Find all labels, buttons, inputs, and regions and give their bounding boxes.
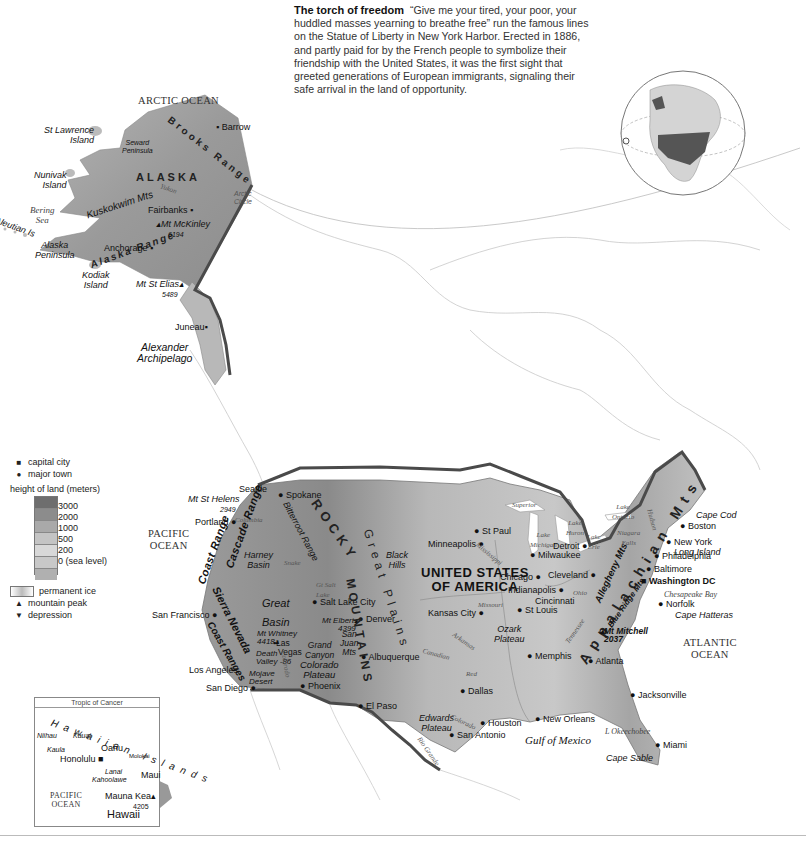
city-washington-dc: ■ Washington DC [641, 576, 716, 586]
label-bering-sea: BeringSea [30, 205, 55, 225]
label-pacific-ocean: PACIFICOCEAN [148, 528, 189, 552]
label-hawaii: Hawaii [107, 809, 140, 819]
city-el-paso: ● El Paso [358, 701, 397, 711]
city-phoenix: ● Phoenix [300, 681, 340, 691]
city-jacksonville: ● Jacksonville [630, 690, 686, 700]
label-niihau: Niihau [37, 732, 57, 740]
label-ohio: Ohio [573, 588, 587, 598]
permanent-ice-swatch [10, 586, 34, 597]
label-kahoolawe: Kahoolawe [92, 776, 127, 784]
legend-major-town: ●major town [10, 468, 145, 480]
city-cleveland: Cleveland ● [548, 570, 596, 580]
peak-mt-mitchell: ▴Mt Mitchell2037 [600, 627, 648, 643]
label-kaula: Kaula [47, 746, 65, 754]
legend-mountain-peak: ▲mountain peak [10, 597, 145, 609]
label-gulf-of-mexico: Gulf of Mexico [525, 735, 591, 745]
city-anchorage: Anchorage ▪ [104, 243, 153, 253]
depression-icon: ▼ [10, 611, 28, 620]
city-milwaukee: ● Milwaukee [530, 550, 580, 560]
city-norfolk: ● Norfolk [658, 599, 694, 609]
label-lake-okeechobee: L Okeechobee [605, 727, 650, 737]
locator-globe [621, 71, 745, 195]
city-fairbanks: Fairbanks ▪ [148, 205, 193, 215]
city-los-angeles: Los Angeles [189, 665, 238, 675]
label-grand-canyon: GrandCanyon [305, 640, 334, 660]
city-honolulu: Honolulu ■ [60, 754, 103, 764]
legend-capital-city: ■capital city [10, 456, 145, 468]
label-nunivak-island: NunivakIsland [34, 170, 67, 190]
city-san-francisco: San Francisco ● [152, 610, 217, 620]
label-maui: Maui [141, 770, 161, 780]
city-new-orleans: ● New Orleans [535, 714, 595, 724]
label-kodiak-island: KodiakIsland [82, 270, 110, 290]
label-lake-huron: LakeHuron [566, 518, 584, 538]
map-legend: ■capital city ●major town height of land… [10, 456, 145, 621]
major-town-icon: ● [10, 470, 28, 479]
label-ozark-plateau: OzarkPlateau [494, 624, 525, 644]
label-alaska: ALASKA [136, 172, 200, 182]
label-atlantic-ocean: ATLANTICOCEAN [683, 637, 737, 661]
city-san-diego: San Diego ● [206, 683, 256, 693]
legend-depression: ▼depression [10, 609, 145, 621]
height-labels: 3000 2000 1000 500 200 0 (sea level) [58, 501, 107, 567]
label-cape-hatteras: Cape Hatteras [675, 610, 733, 620]
label-molokai: Molokai [129, 752, 150, 760]
label-seward-peninsula: SewardPeninsula [122, 139, 153, 155]
legend-height-title: height of land (meters) [10, 484, 145, 494]
label-arctic-circle: ArcticCircle [234, 190, 252, 206]
city-st-paul: ● St Paul [474, 526, 511, 536]
label-missouri: Missouri [478, 600, 503, 610]
page-footer-line [0, 835, 806, 836]
city-atlanta: ● Atlanta [588, 656, 623, 666]
label-oahu: Oahu [101, 743, 123, 753]
city-kansas-city: Kansas City ● [428, 608, 484, 618]
label-alexander-archipelago: AlexanderArchipelago [137, 342, 192, 364]
label-pacific-ocean-inset: PACIFICOCEAN [50, 791, 82, 809]
label-cape-cod: Cape Cod [696, 510, 737, 520]
city-boston: ● Boston [680, 521, 716, 531]
city-houston: ● Houston [480, 718, 521, 728]
label-red: Red [466, 669, 477, 679]
label-black-hills: BlackHills [386, 550, 408, 570]
city-juneau: Juneau▪ [175, 322, 208, 332]
hawaii-inset: Tropic of Cancer Hawaiian Islands Niihau… [34, 697, 160, 827]
label-snake: Snake [284, 558, 301, 568]
label-arctic-ocean: ARCTIC OCEAN [138, 95, 219, 107]
city-salt-lake-city: ● Salt Lake City [312, 597, 375, 607]
label-lanai: Lanai [105, 768, 122, 776]
peak-mt-st-helens: Mt St Helens2949 [188, 494, 240, 514]
label-niagara-falls: NiagaraFalls [617, 528, 640, 548]
city-philadelphia: ● Philadelphia [654, 551, 711, 561]
height-ramp [34, 496, 58, 575]
label-kauai: Kauai [73, 732, 91, 740]
city-barrow: ▪ Barrow [216, 122, 250, 132]
city-memphis: ● Memphis [527, 651, 571, 661]
label-alaska-peninsula: AlaskaPeninsula [35, 240, 75, 260]
label-great-basin: GreatBasin [262, 594, 290, 632]
legend-permanent-ice: permanent ice [10, 585, 145, 597]
canada-outline [250, 195, 760, 470]
peak-mt-st-elias: Mt St Elias▴5489 [136, 279, 184, 299]
label-superior: Superior [512, 500, 537, 510]
city-new-york: ● New York [666, 537, 712, 547]
peak-mt-mckinley: ▴Mt McKinley6194 [156, 219, 210, 239]
label-cape-sable: Cape Sable [606, 753, 653, 763]
tropic-line [35, 707, 159, 708]
label-colorado-plateau: ColoradoPlateau [300, 660, 339, 680]
label-harney-basin: HarneyBasin [244, 550, 273, 570]
city-st-louis: ● St Louis [517, 605, 557, 615]
city-baltimore: ● Baltimore [646, 564, 692, 574]
mountain-peak-icon: ▲ [10, 599, 28, 608]
city-miami: ● Miami [655, 740, 687, 750]
label-lake-erie: LakeErie [587, 532, 601, 552]
label-country: UNITED STATESOF AMERICA [421, 566, 529, 594]
city-dallas: ● Dallas [460, 686, 493, 696]
label-lake-ontario: LakeOntario [612, 502, 634, 522]
capital-city-icon: ■ [10, 458, 28, 467]
label-st-lawrence-island: St LawrenceIsland [44, 125, 94, 145]
city-detroit: Detroit ● [553, 541, 587, 551]
city-san-antonio: ● San Antonio [449, 730, 505, 740]
